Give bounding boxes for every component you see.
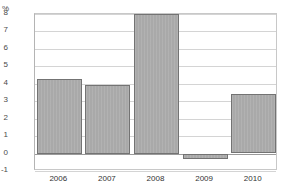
- x-tick-label: 2010: [228, 174, 278, 183]
- y-tick-label: 2: [0, 114, 8, 122]
- y-tick-label: -1: [0, 166, 8, 174]
- bar-fill: [184, 155, 227, 158]
- bar-fill: [135, 15, 178, 153]
- x-tick-label: 2007: [82, 174, 132, 183]
- bar[interactable]: [85, 85, 130, 154]
- y-tick-label: 1: [0, 131, 8, 139]
- x-tick-label: 2008: [131, 174, 181, 183]
- bar[interactable]: [37, 79, 82, 154]
- y-tick-label: 4: [0, 79, 8, 87]
- y-tick-label: 8: [0, 9, 8, 17]
- y-tick-label: 0: [0, 149, 8, 157]
- bar-fill: [86, 86, 129, 153]
- bar[interactable]: [183, 154, 228, 159]
- bar-fill: [232, 95, 275, 152]
- zero-line: [35, 154, 276, 155]
- plot-area: [34, 13, 277, 170]
- x-tick-label: 2009: [179, 174, 229, 183]
- bar-chart: % 876543210-1 20062007200820092010: [0, 0, 290, 189]
- bar[interactable]: [134, 14, 179, 154]
- gridline: [35, 171, 276, 172]
- y-tick-label: 7: [0, 26, 8, 34]
- y-tick-label: 6: [0, 44, 8, 52]
- bar[interactable]: [231, 94, 276, 153]
- y-tick-label: 5: [0, 61, 8, 69]
- bar-fill: [38, 80, 81, 153]
- y-tick-label: 3: [0, 96, 8, 104]
- x-tick-label: 2006: [33, 174, 83, 183]
